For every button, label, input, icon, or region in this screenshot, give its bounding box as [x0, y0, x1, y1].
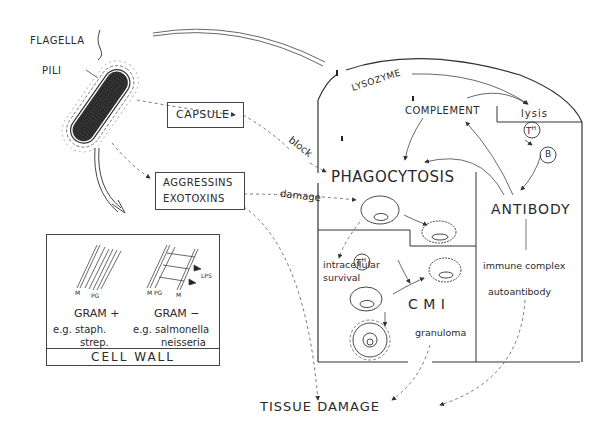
gram-neg-pg-label: PG [154, 290, 162, 296]
complement-label: COMPLEMENT [405, 106, 480, 116]
flagellum-icon [98, 30, 102, 60]
bacterium-illustration [54, 30, 147, 213]
cell-wall-title: CELL WALL [47, 351, 219, 363]
cell-wall-panel: M PG M PG M LPS GRAM + e.g. staph. strep… [46, 234, 220, 366]
tissue-damage-label: TISSUE DAMAGE [260, 400, 380, 413]
granuloma-label: granuloma [415, 328, 466, 338]
gram-pos-m-label: M [75, 290, 80, 296]
b-cell-label: B [545, 150, 551, 159]
cell-wall-title-divider [47, 348, 219, 349]
gram-negative-examples-2: neisseria [161, 338, 206, 348]
pili-icon [86, 70, 98, 78]
gram-positive-wall-icon [67, 243, 127, 293]
lysis-label: lysis [521, 109, 548, 119]
gram-neg-m2-label: M [176, 292, 181, 298]
intracellular-survival-label-1: intracellular [323, 260, 380, 270]
th-sup: H [532, 124, 537, 131]
gram-negative-wall-icon [139, 243, 219, 293]
cmi-label: C M I [408, 297, 445, 311]
gram-positive-examples-1: e.g. staph. [53, 325, 106, 335]
autoantibody-label: autoantibody [488, 287, 551, 297]
gram-neg-m-label: M [147, 290, 152, 296]
gram-pos-pg-label: PG [91, 293, 99, 299]
intracellular-survival-label-2: survival [323, 273, 360, 283]
gram-negative-examples-1: e.g. salmonella [133, 325, 209, 335]
bacterium-body-icon [68, 67, 132, 145]
gram-positive-label: GRAM + [74, 308, 119, 319]
flagella-label: FLAGELLA [30, 36, 85, 46]
capsule-label: CAPSULE [176, 109, 229, 120]
pili-label: PILI [42, 66, 62, 76]
phagocytosis-label: PHAGOCYTOSIS [331, 170, 455, 185]
aggressins-label: AGGRESSINS [163, 178, 233, 188]
gram-positive-examples-2: strep. [80, 338, 109, 348]
exotoxins-label: EXOTOXINS [163, 194, 225, 204]
antibody-label: ANTIBODY [491, 202, 571, 216]
immune-complex-label: immune complex [483, 261, 565, 271]
diagram-canvas [0, 0, 610, 435]
gram-neg-lps-label: LPS [201, 273, 212, 279]
gram-negative-label: GRAM − [154, 308, 199, 319]
th-cell-label: TH [526, 125, 536, 136]
